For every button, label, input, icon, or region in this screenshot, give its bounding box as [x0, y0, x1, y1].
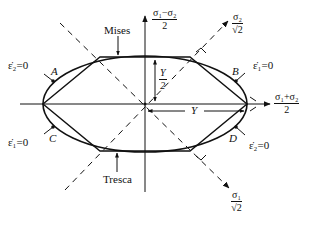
yield-locus-diagram	[0, 0, 321, 225]
horizontal-axis-label: σ₁+σ₂ 2	[274, 92, 299, 115]
right-angle-mark-lower	[196, 155, 206, 160]
axis-h-numerator: σ₁+σ₂	[274, 92, 299, 104]
strain-label-c: ε̇₁=0	[8, 137, 28, 148]
diag-down-numerator: σ₁	[231, 190, 242, 202]
point-a-label: A	[51, 66, 58, 77]
diag-up-denominator: √2	[232, 24, 243, 35]
leader-d	[236, 127, 245, 135]
strain-label-b: ε̇₁=0	[253, 60, 273, 71]
diagonal-up-label: σ₂ √2	[232, 12, 243, 35]
dimension-y-half-label: Y 2	[159, 68, 167, 91]
axis-h-denominator: 2	[284, 104, 289, 115]
y-half-numerator: Y	[159, 68, 167, 80]
y-half-denominator: 2	[160, 80, 165, 91]
dimension-y-label: Y	[191, 105, 197, 116]
vertical-axis-label: σ₁−σ₂ 2	[152, 8, 177, 31]
tick-right-upper	[250, 97, 256, 101]
origin-point	[144, 103, 147, 106]
tresca-label: Tresca	[103, 174, 132, 185]
strain-label-a: ε̇₂=0	[8, 60, 28, 71]
point-c-label: C	[49, 133, 56, 144]
point-d-label: D	[229, 133, 237, 144]
diag-down-denominator: √2	[231, 202, 242, 213]
diag-up-numerator: σ₂	[232, 12, 243, 24]
axis-v-numerator: σ₁−σ₂	[152, 8, 177, 20]
mises-label: Mises	[104, 25, 130, 36]
point-b-label: B	[232, 66, 239, 77]
strain-label-d: ε̇₂=0	[249, 140, 269, 151]
diagonal-down-label: σ₁ √2	[231, 190, 242, 213]
axis-v-denominator: 2	[162, 20, 167, 31]
diagonal-axis-sigma2	[65, 21, 228, 190]
tick-right-lower	[250, 107, 256, 111]
